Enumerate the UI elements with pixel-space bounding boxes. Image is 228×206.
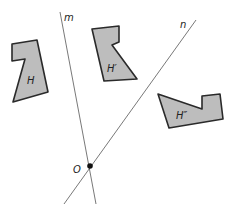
line-m (60, 12, 96, 204)
shape-h-double-prime-label: H″ (176, 110, 188, 121)
line-n-label: n (180, 19, 186, 30)
shape-h-prime-label: H′ (107, 63, 118, 74)
point-o (87, 163, 93, 169)
shape-h-double-prime (158, 94, 223, 128)
point-o-label: O (73, 164, 81, 175)
shape-h (12, 40, 48, 102)
shape-h-label: H (27, 75, 35, 86)
line-m-label: m (64, 12, 74, 23)
reflection-diagram: m n H H′ H″ O (0, 0, 228, 206)
